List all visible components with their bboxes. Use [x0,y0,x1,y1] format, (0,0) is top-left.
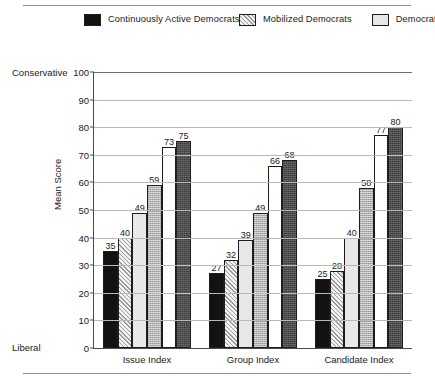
bar: 25 [315,279,330,348]
bar-value-label: 32 [226,251,236,260]
x-axis-group-label: Issue Index [123,354,172,365]
bar: 28 [330,271,345,348]
plot-area: 354049597375273239496668252840587780 100… [93,72,412,349]
y-axis-tick-label: 70 [78,149,89,160]
bar-value-label: 73 [164,138,174,147]
axis-pole-high-label: Conservative [12,67,67,78]
y-axis-tick-label: 90 [78,94,89,105]
gridline [94,155,412,156]
x-axis-group-label: Candidate Index [324,354,393,365]
axis-pole-low-label: Liberal [12,342,41,353]
bar-value-label: 59 [149,176,159,185]
x-axis-group-label: Group Index [227,354,279,365]
gridline [94,210,412,211]
bar-value-label: 40 [120,229,130,238]
y-axis-tick-mark [90,320,94,321]
y-axis-tick-label: 30 [78,260,89,271]
gridline [94,182,412,183]
y-axis-tick-label: 20 [78,287,89,298]
y-axis-tick-mark [90,127,94,128]
y-axis-tick-mark [90,72,94,73]
y-axis-tick-label: 60 [78,177,89,188]
y-axis-tick-mark [90,154,94,155]
y-axis-title: Mean Score [52,159,63,210]
bar-value-label: 80 [390,118,400,127]
y-axis-tick-label: 10 [78,315,89,326]
bar: 39 [238,240,253,348]
gridline [94,127,412,128]
legend-item: Continuously Active Democrats [84,12,219,28]
legend-swatch-very-light-icon [372,14,389,26]
legend-item: Mobilized Democrats [239,12,352,28]
bar: 32 [224,260,239,348]
gridline [94,265,412,266]
legend-swatch-solid-black-icon [84,14,101,26]
bottom-divider-rule [23,373,411,374]
y-axis-tick-mark [90,348,94,349]
y-axis-tick-mark [90,210,94,211]
y-axis-tick-label: 80 [78,122,89,133]
legend-swatch-hatch-light-icon [239,14,256,26]
y-axis-tick-label: 100 [73,67,89,78]
legend-item-label: Continuously Active Democrats [108,15,240,24]
y-axis-tick-mark [90,265,94,266]
gridline [94,238,412,239]
bar-value-label: 75 [178,132,188,141]
bar: 73 [162,147,177,348]
top-divider-rule [23,5,411,6]
bar: 49 [132,213,147,348]
bar: 77 [374,135,389,348]
y-axis-tick-label: 40 [78,232,89,243]
bar-value-label: 39 [241,231,251,240]
bar-value-label: 66 [270,157,280,166]
bar-value-label: 49 [255,204,265,213]
bar-value-label: 40 [347,229,357,238]
bar: 75 [176,141,191,348]
bar-value-label: 49 [135,204,145,213]
legend-item-label: Democratic Identifiers [396,15,435,24]
gridline [94,293,412,294]
bar: 49 [253,213,268,348]
gridline [94,100,412,101]
bar-value-label: 35 [105,242,115,251]
y-axis-tick-mark [90,237,94,238]
bar-value-label: 68 [284,151,294,160]
y-axis-tick-mark [90,99,94,100]
bar: 27 [209,273,224,348]
chart-legend: Continuously Active DemocratsMobilized D… [84,12,430,28]
y-axis-tick-mark [90,182,94,183]
y-axis-tick-label: 50 [78,205,89,216]
gridline [94,320,412,321]
bar-value-label: 25 [317,270,327,279]
bar-value-label: 58 [361,179,371,188]
legend-item-label: Mobilized Democrats [263,15,352,24]
bar-value-label: 28 [332,262,342,271]
y-axis-tick-mark [90,292,94,293]
legend-item: Democratic Identifiers [372,12,435,28]
gridline [94,72,412,73]
y-axis-tick-label: 0 [84,343,89,354]
bar: 58 [359,188,374,348]
